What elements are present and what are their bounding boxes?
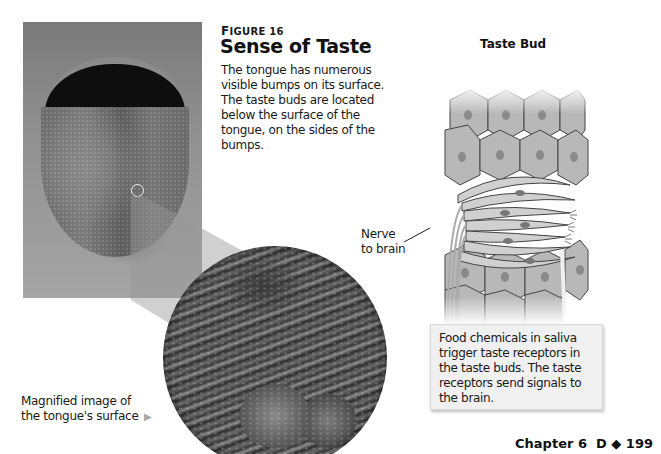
locator-circle-icon <box>131 184 144 197</box>
page-folio: Chapter 6 D ◆ 199 <box>515 436 653 451</box>
tongue <box>41 107 189 257</box>
nerve-label-line1: Nerve <box>361 227 405 242</box>
folio-page-number: 199 <box>626 436 653 451</box>
taste-receptor-callout: Food chemicals in saliva trigger taste r… <box>430 324 603 410</box>
magnified-caption-line1: Magnified image of <box>21 394 151 409</box>
folio-chapter: Chapter 6 <box>515 436 587 451</box>
figure-title: Sense of Taste <box>220 35 371 57</box>
taste-bud-illustration <box>440 85 590 325</box>
nerve-label-line2: to brain <box>361 242 405 257</box>
figure-description: The tongue has numerous visible bumps on… <box>221 63 396 153</box>
magnified-caption: Magnified image of the tongue's surface … <box>21 394 151 424</box>
nerve-label: Nerve to brain <box>361 227 405 257</box>
arrow-right-icon: ▶ <box>144 411 151 422</box>
folio-section: D <box>596 436 607 451</box>
tongue-photo <box>23 22 202 298</box>
taste-bud-title: Taste Bud <box>480 37 546 51</box>
diamond-icon: ◆ <box>611 436 621 451</box>
magnified-tongue-image <box>163 246 387 454</box>
magnified-caption-line2: the tongue's surface <box>21 409 138 423</box>
